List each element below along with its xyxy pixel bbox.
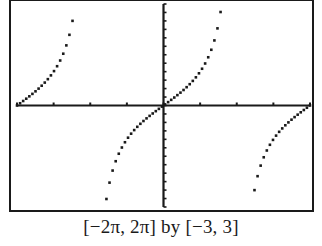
plot-point bbox=[28, 95, 31, 98]
plot-point bbox=[40, 84, 43, 87]
plot-point bbox=[281, 127, 284, 130]
plot-point bbox=[151, 112, 154, 115]
plot-point bbox=[296, 113, 299, 116]
plot-point bbox=[272, 139, 275, 142]
plot-point bbox=[19, 102, 22, 105]
window-caption: [−2π, 2π] by [−3, 3] bbox=[0, 216, 322, 238]
plot-point bbox=[164, 103, 167, 106]
plot-point bbox=[124, 141, 127, 144]
plot-point bbox=[179, 91, 182, 94]
plot-point bbox=[198, 72, 201, 75]
plot-point bbox=[195, 76, 198, 79]
plot-point bbox=[213, 39, 216, 42]
plot-point bbox=[256, 175, 259, 178]
plot-point bbox=[299, 111, 302, 114]
plot-point bbox=[47, 78, 50, 81]
plot-point bbox=[173, 96, 176, 99]
plot-point bbox=[287, 121, 290, 124]
plot-point bbox=[71, 20, 74, 23]
plot-point bbox=[192, 80, 195, 83]
plot-point bbox=[43, 81, 46, 84]
plot-point bbox=[303, 109, 306, 112]
plot-point bbox=[62, 52, 65, 55]
plot-point bbox=[59, 59, 62, 62]
plot-point bbox=[16, 104, 19, 107]
plot-point bbox=[201, 67, 204, 70]
plot-point bbox=[204, 62, 207, 65]
plot-point bbox=[65, 44, 68, 47]
plot-point bbox=[290, 118, 293, 121]
plot-point bbox=[284, 124, 287, 127]
plot-point bbox=[253, 189, 256, 192]
plot-point bbox=[25, 97, 28, 100]
plot-point bbox=[117, 152, 120, 155]
plot-point bbox=[133, 129, 136, 132]
function-plot bbox=[11, 1, 312, 210]
plot-point bbox=[309, 104, 312, 107]
plot-point bbox=[269, 143, 272, 146]
plot-point bbox=[176, 94, 179, 97]
plot-point bbox=[56, 65, 59, 68]
plot-point bbox=[136, 126, 139, 129]
plot-point bbox=[145, 117, 148, 120]
plot-point bbox=[185, 86, 188, 89]
plot-point bbox=[142, 120, 145, 123]
plot-point bbox=[219, 11, 222, 14]
plot-point bbox=[167, 101, 170, 104]
plot-point bbox=[293, 116, 296, 119]
plot-point bbox=[210, 48, 213, 51]
plot-point bbox=[259, 164, 262, 167]
plot-point bbox=[306, 106, 309, 109]
plot-point bbox=[53, 70, 56, 73]
plot-point bbox=[154, 110, 157, 113]
plot-point bbox=[108, 181, 111, 184]
plot-point bbox=[148, 115, 151, 118]
plot-point bbox=[266, 149, 269, 152]
plot-point bbox=[262, 156, 265, 159]
plot-point bbox=[111, 169, 114, 172]
plot-point bbox=[31, 93, 34, 96]
plot-point bbox=[22, 100, 25, 103]
plot-point bbox=[114, 160, 117, 163]
plot-point bbox=[50, 74, 53, 77]
plot-point bbox=[170, 99, 173, 102]
plot-point bbox=[105, 198, 108, 201]
plot-point bbox=[207, 56, 210, 59]
plot-point bbox=[161, 105, 164, 108]
plot-point bbox=[275, 134, 278, 137]
plot-point bbox=[37, 87, 40, 90]
plot-point bbox=[278, 131, 281, 134]
plot-point bbox=[188, 83, 191, 86]
plot-point bbox=[158, 108, 161, 111]
plot-point bbox=[127, 136, 130, 139]
plot-point bbox=[182, 89, 185, 92]
plot-point bbox=[68, 34, 71, 37]
plot-point bbox=[121, 146, 124, 149]
plot-point bbox=[130, 132, 133, 135]
plot-point bbox=[34, 90, 37, 93]
graph-screen bbox=[9, 0, 314, 212]
plot-point bbox=[216, 27, 219, 30]
plot-point bbox=[139, 123, 142, 126]
axes bbox=[17, 4, 310, 207]
